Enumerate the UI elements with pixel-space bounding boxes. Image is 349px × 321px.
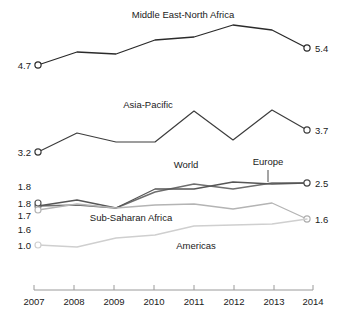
series-line-americas (38, 219, 307, 247)
x-axis-tick-label-2007: 2007 (23, 296, 44, 307)
start-value-label-world-lower: 1.6 (18, 224, 31, 235)
x-axis-tick-label-2013: 2013 (263, 296, 284, 307)
series-end-marker-world-europe (304, 180, 310, 186)
end-value-label-world: 2.5 (315, 178, 328, 189)
series-start-marker-americas (35, 242, 41, 248)
end-value-label-ssa: 1.6 (315, 214, 328, 225)
x-axis-tick-label-2011: 2011 (184, 296, 204, 307)
series-end-marker-asia-pacific (304, 127, 310, 133)
series-label-asia-pacific: Asia-Pacific (123, 99, 173, 110)
x-axis-tick-label-2010: 2010 (143, 296, 164, 307)
x-axis-tick-label-2014: 2014 (302, 296, 323, 307)
x-axis-tick-label-2008: 2008 (63, 296, 84, 307)
start-value-label-ssa: 1.7 (18, 210, 31, 221)
series-label-americas: Americas (176, 240, 216, 251)
start-value-label-americas: 1.0 (18, 240, 31, 251)
series-label-sub-saharan-africa: Sub-Saharan Africa (90, 212, 173, 223)
series-line-middle-east-north-africa (38, 25, 307, 65)
x-axis: 2007 2008 2009 2010 2011 2012 2013 2014 (23, 285, 323, 307)
start-value-label-asia: 3.2 (18, 147, 31, 158)
chart-canvas: Middle East-North Africa Asia-Pacific Wo… (0, 0, 349, 321)
series-label-middle-east-north-africa: Middle East-North Africa (132, 9, 235, 20)
series-label-europe: Europe (253, 156, 284, 167)
series-label-world: World (174, 159, 199, 170)
line-chart: Middle East-North Africa Asia-Pacific Wo… (0, 0, 349, 321)
series-start-marker-sub-saharan-africa (35, 207, 41, 213)
end-value-label-asia: 3.7 (315, 125, 328, 136)
series-line-asia-pacific (38, 110, 307, 152)
series-start-marker-asia-pacific (35, 149, 41, 155)
start-value-label-world-top: 1.8 (18, 181, 31, 192)
start-value-label-europe: 1.8 (18, 198, 31, 209)
start-value-label-mena: 4.7 (18, 60, 31, 71)
end-value-label-mena: 5.4 (315, 43, 328, 54)
x-axis-tick-label-2012: 2012 (223, 296, 244, 307)
series-start-marker-europe (35, 200, 41, 206)
series-start-marker-middle-east-north-africa (35, 62, 41, 68)
x-axis-tick-label-2009: 2009 (103, 296, 124, 307)
series-end-marker-middle-east-north-africa (304, 45, 310, 51)
